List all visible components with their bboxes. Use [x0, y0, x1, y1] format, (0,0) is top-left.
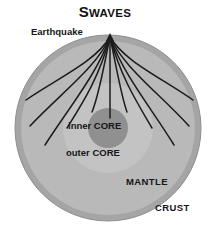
s-waves-diagram: SWAVES Earthquake inner CORE outer CORE …	[0, 0, 210, 237]
page-title: SWAVES	[0, 3, 210, 21]
label-mantle: MANTLE	[126, 177, 168, 187]
title-lead: S	[79, 3, 89, 20]
label-crust: CRUST	[155, 203, 190, 213]
label-inner-core: inner CORE	[68, 121, 121, 131]
label-earthquake: Earthquake	[31, 27, 83, 37]
label-outer-core: outer CORE	[66, 148, 120, 158]
title-rest: WAVES	[89, 7, 131, 19]
